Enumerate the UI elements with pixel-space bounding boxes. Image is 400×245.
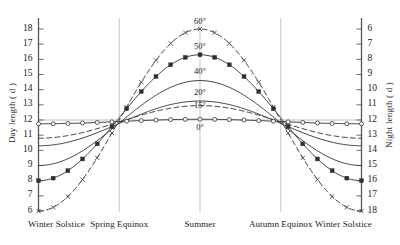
y-tick-label-right: 12 — [368, 114, 384, 124]
marker-square — [301, 142, 305, 146]
marker-x — [286, 131, 290, 135]
marker-square — [360, 179, 364, 183]
marker-circle — [242, 118, 246, 122]
marker-circle — [330, 121, 334, 125]
marker-x — [95, 156, 99, 160]
marker-square — [271, 107, 275, 111]
marker-square — [257, 90, 261, 94]
y-tick-label-left: 18 — [17, 23, 33, 33]
marker-x — [183, 31, 187, 35]
y-tick-label-left: 14 — [17, 83, 33, 93]
marker-circle — [81, 121, 85, 125]
y-tick-label-left: 17 — [17, 38, 33, 48]
y-tick-label-left: 15 — [17, 68, 33, 78]
marker-square — [81, 157, 85, 161]
x-tick-label: Winter Solstice — [28, 219, 85, 229]
marker-circle — [315, 121, 319, 125]
marker-x — [154, 58, 158, 62]
marker-square — [139, 90, 143, 94]
marker-circle — [37, 122, 41, 126]
marker-circle — [213, 117, 217, 121]
marker-circle — [139, 119, 143, 123]
marker-x — [242, 58, 246, 62]
y-tick-label-right: 6 — [368, 23, 384, 33]
marker-x — [257, 80, 261, 84]
marker-circle — [257, 119, 261, 123]
curve-label-40deg: 40° — [194, 66, 206, 76]
y-axis-title-day-length: Day length ( d ) — [7, 68, 17, 158]
y-tick-label-right: 8 — [368, 53, 384, 63]
marker-square — [154, 75, 158, 79]
marker-x — [345, 205, 349, 209]
curve-label-20deg: 20° — [194, 87, 206, 97]
marker-x — [110, 131, 114, 135]
marker-square — [37, 179, 41, 183]
y-tick-label-right: 11 — [368, 98, 384, 108]
marker-circle — [183, 117, 187, 121]
marker-x — [139, 80, 143, 84]
y-tick-label-right: 13 — [368, 129, 384, 139]
day-length-chart: Day length ( d ) Night length ( d ) 1817… — [0, 0, 400, 245]
marker-square — [169, 63, 173, 67]
y-tick-label-right: 14 — [368, 144, 384, 154]
marker-square — [95, 142, 99, 146]
marker-square — [213, 55, 217, 59]
marker-circle — [95, 120, 99, 124]
curve-label-0deg: 0° — [196, 122, 204, 132]
marker-circle — [301, 120, 305, 124]
y-tick-label-left: 10 — [17, 144, 33, 154]
marker-square — [183, 55, 187, 59]
marker-x — [66, 194, 70, 198]
y-tick-label-left: 12 — [17, 114, 33, 124]
marker-circle — [286, 120, 290, 124]
marker-x — [227, 41, 231, 45]
y-tick-label-left: 16 — [17, 53, 33, 63]
marker-x — [315, 177, 319, 181]
marker-square — [345, 176, 349, 180]
marker-circle — [51, 122, 55, 126]
marker-circle — [345, 122, 349, 126]
curve-label-15deg: 15° — [194, 100, 206, 110]
marker-square — [198, 53, 202, 57]
marker-x — [330, 194, 334, 198]
y-tick-label-left: 6 — [17, 205, 33, 215]
marker-circle — [110, 120, 114, 124]
marker-square — [242, 75, 246, 79]
marker-x — [51, 205, 55, 209]
y-tick-label-left: 9 — [17, 159, 33, 169]
y-tick-label-right: 9 — [368, 68, 384, 78]
marker-circle — [271, 119, 275, 123]
x-tick-label: Spring Equinox — [90, 219, 148, 229]
x-tick-label: Autumn Equinox — [249, 219, 313, 229]
y-tick-label-left: 13 — [17, 98, 33, 108]
marker-square — [227, 63, 231, 67]
marker-square — [51, 176, 55, 180]
x-tick-label: Summer — [184, 219, 215, 229]
marker-x — [301, 156, 305, 160]
marker-circle — [125, 119, 129, 123]
marker-square — [330, 169, 334, 173]
y-tick-label-right: 16 — [368, 174, 384, 184]
marker-circle — [154, 118, 158, 122]
y-tick-label-right: 7 — [368, 38, 384, 48]
x-tick-label: Winter Solstice — [315, 219, 372, 229]
marker-x — [213, 31, 217, 35]
y-tick-label-left: 11 — [17, 129, 33, 139]
marker-square — [125, 107, 129, 111]
y-tick-label-right: 18 — [368, 205, 384, 215]
y-tick-label-right: 15 — [368, 159, 384, 169]
y-tick-label-right: 10 — [368, 83, 384, 93]
marker-x — [80, 177, 84, 181]
marker-x — [169, 41, 173, 45]
marker-circle — [360, 122, 364, 126]
marker-circle — [227, 118, 231, 122]
marker-circle — [66, 121, 70, 125]
curve-label-60deg: 60° — [194, 16, 206, 26]
y-tick-label-left: 7 — [17, 189, 33, 199]
marker-circle — [198, 117, 202, 121]
curve-label-50deg: 50° — [194, 41, 206, 51]
marker-circle — [169, 118, 173, 122]
y-tick-label-left: 8 — [17, 174, 33, 184]
y-axis-title-night-length: Night length ( d ) — [384, 70, 394, 160]
marker-square — [66, 169, 70, 173]
